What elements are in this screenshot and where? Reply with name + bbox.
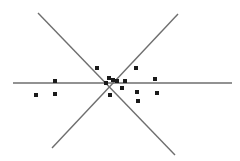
data-point [136, 99, 140, 103]
data-point [53, 92, 57, 96]
data-point [155, 91, 159, 95]
data-point [107, 76, 111, 80]
data-point [120, 86, 124, 90]
data-point [108, 93, 112, 97]
data-point [104, 81, 108, 85]
data-point [115, 79, 119, 83]
data-point [111, 78, 115, 82]
data-point [53, 79, 57, 83]
data-point [95, 66, 99, 70]
data-point [34, 93, 38, 97]
plot-canvas [0, 0, 240, 161]
data-point [135, 90, 139, 94]
data-point [153, 77, 157, 81]
scatter-plot-figure [0, 0, 240, 161]
lines-group [13, 13, 232, 155]
data-point [134, 66, 138, 70]
data-point [123, 79, 127, 83]
points-group [34, 66, 159, 103]
